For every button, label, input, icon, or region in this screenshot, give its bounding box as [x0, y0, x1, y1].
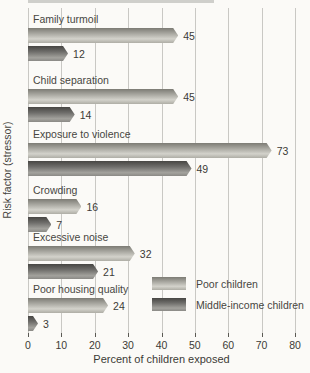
category-label-poor-housing-quality: Poor housing quality — [33, 283, 128, 295]
x-axis-title: Percent of children exposed — [28, 353, 295, 365]
value-label: 73 — [277, 145, 289, 157]
x-tick — [28, 333, 29, 337]
value-label: 49 — [197, 163, 209, 175]
legend-label-poor-children: Poor children — [196, 278, 258, 290]
category-label-crowding: Crowding — [33, 184, 77, 196]
x-tick-label: 50 — [182, 339, 208, 351]
x-tick — [262, 333, 263, 337]
bar-middle-income-children — [28, 107, 75, 122]
x-tick-label: 30 — [115, 339, 141, 351]
value-label: 45 — [183, 91, 195, 103]
bar-poor-children — [28, 199, 81, 214]
value-label: 16 — [86, 201, 98, 213]
bar-middle-income-children — [28, 161, 192, 176]
bar-middle-income-children — [28, 217, 51, 232]
bar-middle-income-children — [28, 264, 98, 279]
legend-item-poor-children: Poor children — [152, 277, 304, 290]
legend-item-middle-income-children: Middle-income children — [152, 298, 304, 311]
bar-middle-income-children — [28, 316, 38, 331]
x-tick-label: 20 — [82, 339, 108, 351]
value-label: 3 — [43, 318, 49, 330]
x-tick-label: 80 — [282, 339, 308, 351]
bar-poor-children — [28, 143, 272, 158]
x-tick-label: 60 — [215, 339, 241, 351]
x-tick-label: 10 — [48, 339, 74, 351]
category-label-excessive-noise: Excessive noise — [33, 231, 108, 243]
x-tick — [295, 333, 296, 337]
x-tick — [162, 333, 163, 337]
x-tick — [195, 333, 196, 337]
x-tick — [61, 333, 62, 337]
figure: Poor children Middle-income children Per… — [0, 0, 310, 373]
x-tick — [228, 333, 229, 337]
legend-swatch-poor-children — [152, 277, 186, 290]
value-label: 12 — [73, 48, 85, 60]
x-tick-label: 70 — [249, 339, 275, 351]
value-label: 24 — [113, 300, 125, 312]
x-tick-label: 40 — [149, 339, 175, 351]
category-label-exposure-to-violence: Exposure to violence — [33, 128, 130, 140]
value-label: 32 — [140, 248, 152, 260]
x-tick — [128, 333, 129, 337]
x-tick — [95, 333, 96, 337]
x-tick-label: 0 — [15, 339, 41, 351]
bar-poor-children — [28, 298, 108, 313]
value-label: 7 — [56, 219, 62, 231]
bar-middle-income-children — [28, 46, 68, 61]
legend: Poor children Middle-income children — [152, 277, 304, 319]
y-axis-title: Risk factor (stressor) — [1, 95, 13, 245]
legend-label-middle-income-children: Middle-income children — [196, 299, 304, 311]
top-strip — [28, 0, 214, 3]
bar-poor-children — [28, 28, 178, 43]
legend-swatch-middle-income-children — [152, 298, 186, 311]
category-label-family-turmoil: Family turmoil — [33, 13, 98, 25]
category-label-child-separation: Child separation — [33, 74, 109, 86]
bar-poor-children — [28, 246, 135, 261]
value-label: 21 — [103, 266, 115, 278]
bar-poor-children — [28, 89, 178, 104]
value-label: 14 — [80, 109, 92, 121]
value-label: 45 — [183, 30, 195, 42]
